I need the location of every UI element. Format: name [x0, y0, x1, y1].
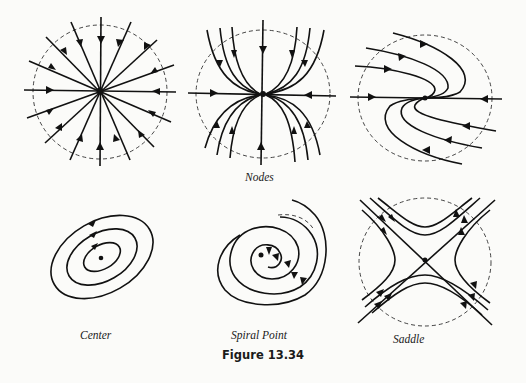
saddle-label: Saddle — [393, 333, 424, 345]
nodes-label: Nodes — [245, 171, 274, 183]
spiral-point-label: Spiral Point — [231, 329, 287, 341]
spiral-point-diagram — [180, 195, 350, 310]
center-label: Center — [80, 329, 111, 341]
degenerate-node-diagram — [350, 0, 526, 180]
improper-node-diagram — [180, 0, 350, 180]
figure-caption: Figure 13.34 — [222, 348, 304, 362]
center-diagram — [0, 195, 180, 305]
saddle-diagram — [350, 195, 526, 330]
star-node-diagram — [0, 0, 180, 180]
